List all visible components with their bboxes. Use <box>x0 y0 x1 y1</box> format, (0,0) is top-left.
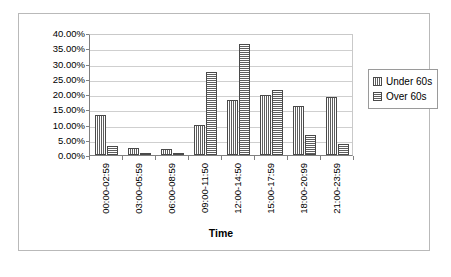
y-axis-tick-label: 30.00% <box>53 60 85 70</box>
y-axis-tick-mark <box>86 65 89 66</box>
y-axis-tick-label: 0.00% <box>58 151 85 161</box>
x-axis-tick-label: 21:00-23:59 <box>332 163 342 214</box>
legend-item-under-60s[interactable]: Under 60s <box>373 74 432 89</box>
x-axis-tick-mark <box>221 156 222 160</box>
bar-under-60s[interactable] <box>227 100 238 155</box>
y-axis-tick-label: 40.00% <box>53 29 85 39</box>
y-axis-labels: 0.00%5.00%10.00%15.00%20.00%25.00%30.00%… <box>37 34 85 156</box>
x-axis-tick-label: 18:00-20:99 <box>299 163 309 214</box>
y-axis-tick-mark <box>86 126 89 127</box>
gridline <box>90 96 352 97</box>
x-axis-tick-mark <box>353 156 354 160</box>
x-axis-tick-mark <box>320 156 321 160</box>
x-axis-tick-label: 00:00-02:59 <box>101 163 111 214</box>
y-axis-tick-mark <box>86 141 89 142</box>
chart-legend: Under 60s Over 60s <box>368 69 438 109</box>
y-axis-tick-label: 20.00% <box>53 90 85 100</box>
y-axis-tick-mark <box>86 49 89 50</box>
gridline <box>90 66 352 67</box>
gridline <box>90 50 352 51</box>
x-axis-title: Time <box>89 227 353 239</box>
x-axis-tick-label: 15:00-17:59 <box>266 163 276 214</box>
bar-over-60s[interactable] <box>107 146 118 155</box>
legend-swatch-icon-over-60s <box>373 92 382 101</box>
bar-over-60s[interactable] <box>272 90 283 155</box>
legend-item-over-60s[interactable]: Over 60s <box>373 89 432 104</box>
gridline <box>90 127 352 128</box>
y-axis-tick-label: 25.00% <box>53 75 85 85</box>
bar-over-60s[interactable] <box>239 44 250 155</box>
x-axis-tick-label: 09:00-11:50 <box>200 163 210 213</box>
x-axis-tick-label: 06:00-08:59 <box>167 163 177 214</box>
x-axis-tick-mark <box>254 156 255 160</box>
y-axis-tick-label: 35.00% <box>53 45 85 55</box>
y-axis-tick-label: 15.00% <box>53 106 85 116</box>
bar-under-60s[interactable] <box>95 115 106 155</box>
x-axis-tick-mark <box>188 156 189 160</box>
bar-over-60s[interactable] <box>305 135 316 155</box>
x-axis-tick-label: 03:00-05:59 <box>134 163 144 214</box>
x-axis-tick-mark <box>155 156 156 160</box>
x-axis-tick-mark <box>287 156 288 160</box>
bar-under-60s[interactable] <box>260 95 271 155</box>
bar-under-60s[interactable] <box>128 148 139 155</box>
bar-over-60s[interactable] <box>173 153 184 155</box>
gridline <box>90 111 352 112</box>
bar-over-60s[interactable] <box>206 72 217 155</box>
y-axis-tick-mark <box>86 110 89 111</box>
legend-label-over-60s: Over 60s <box>386 91 427 102</box>
x-axis-tick-mark <box>122 156 123 160</box>
x-axis-tick-label: 12:00-14:50 <box>233 163 243 214</box>
bar-over-60s[interactable] <box>338 144 349 155</box>
y-axis-tick-mark <box>86 34 89 35</box>
bar-over-60s[interactable] <box>140 153 151 155</box>
chart-frame: 0.00%5.00%10.00%15.00%20.00%25.00%30.00%… <box>18 13 430 251</box>
y-axis-tick-mark <box>86 156 89 157</box>
y-axis-tick-label: 10.00% <box>53 121 85 131</box>
y-axis-tick-label: 5.00% <box>58 136 85 146</box>
gridline <box>90 81 352 82</box>
y-axis-tick-mark <box>86 80 89 81</box>
legend-label-under-60s: Under 60s <box>386 76 432 87</box>
bar-under-60s[interactable] <box>194 125 205 155</box>
legend-swatch-icon-under-60s <box>373 77 382 86</box>
x-axis-tick-mark <box>89 156 90 160</box>
bar-under-60s[interactable] <box>161 149 172 155</box>
y-axis-tick-mark <box>86 95 89 96</box>
bar-under-60s[interactable] <box>293 106 304 155</box>
bar-under-60s[interactable] <box>326 97 337 155</box>
plot-area <box>89 34 353 156</box>
